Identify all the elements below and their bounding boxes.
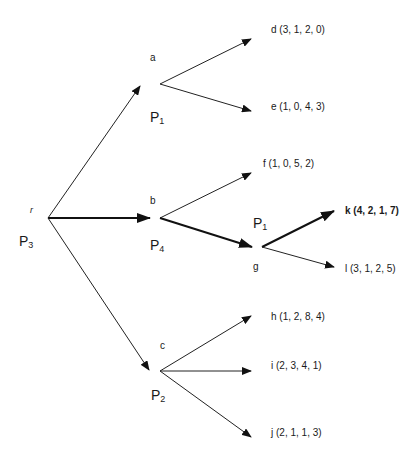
player-index: 1 — [262, 222, 267, 232]
player-label-c: P2 — [151, 388, 165, 404]
leaf-i: i (2, 3, 4, 1) — [271, 361, 322, 371]
player-index: 2 — [160, 394, 165, 404]
edge-g-k — [262, 211, 334, 247]
player-letter: P — [151, 387, 160, 403]
edge-b-g — [160, 218, 252, 247]
node-label-a: a — [150, 53, 156, 63]
leaf-l: l (3, 1, 2, 5) — [345, 264, 396, 274]
leaf-f: f (1, 0, 5, 2) — [263, 159, 314, 169]
leaf-k: k (4, 2, 1, 7) — [345, 206, 399, 216]
node-label-r: r — [30, 206, 33, 215]
edge-a-d — [160, 39, 251, 84]
player-label-g: P1 — [253, 216, 267, 232]
game-tree-edges — [0, 0, 419, 462]
node-label-g: g — [253, 262, 259, 272]
player-index: 3 — [28, 240, 33, 250]
edge-a-e — [160, 84, 251, 111]
edge-c-j — [160, 371, 251, 437]
player-letter: P — [19, 233, 28, 249]
player-label-a: P1 — [150, 110, 164, 126]
leaf-e: e (1, 0, 4, 3) — [271, 102, 325, 112]
node-label-b: b — [150, 196, 156, 206]
leaf-j: j (2, 1, 1, 3) — [271, 428, 322, 438]
player-index: 4 — [159, 244, 164, 254]
edge-b-f — [160, 173, 251, 218]
player-letter: P — [150, 237, 159, 253]
node-label-c: c — [160, 341, 165, 351]
edge-c-h — [160, 316, 251, 371]
leaf-d: d (3, 1, 2, 0) — [271, 25, 325, 35]
edge-r-a — [48, 86, 140, 218]
edge-g-l — [262, 247, 334, 267]
leaf-h: h (1, 2, 8, 4) — [271, 312, 325, 322]
player-label-r: P3 — [19, 234, 33, 250]
player-index: 1 — [159, 116, 164, 126]
edge-r-c — [48, 218, 149, 370]
player-letter: P — [253, 215, 262, 231]
player-label-b: P4 — [150, 238, 164, 254]
player-letter: P — [150, 109, 159, 125]
